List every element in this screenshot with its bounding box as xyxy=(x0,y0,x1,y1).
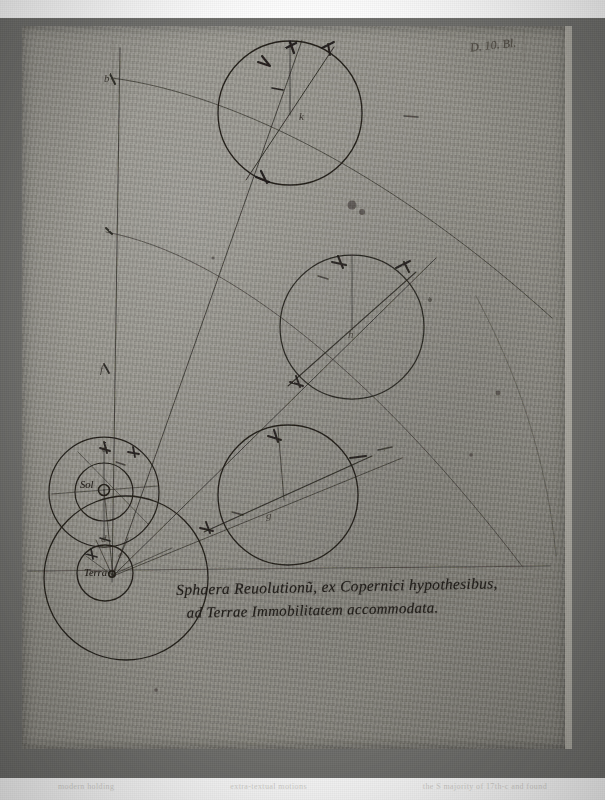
footer-fragment-3: the S majority of 17th-c and found xyxy=(423,782,547,791)
label-point-k: k xyxy=(299,110,304,122)
arc-lower-sweep xyxy=(106,232,522,566)
label-point-f: f xyxy=(100,363,103,375)
label-point-h: h xyxy=(348,328,354,340)
footer-fragment-2: extra-textual motions xyxy=(230,782,307,791)
label-point-d: d xyxy=(101,532,107,544)
manuscript-caption: Sphaera Reuolutionũ, ex Copernici hypoth… xyxy=(176,571,529,626)
footer-showthrough-text: modern holding extra-textual motions the… xyxy=(0,782,605,791)
label-sol: Sol xyxy=(80,479,93,490)
label-point-c: c xyxy=(102,442,107,454)
ray-terra-to-middle-epicycle xyxy=(113,258,436,576)
label-terra: Terra xyxy=(84,567,107,578)
ray-terra-to-upper-epicycle xyxy=(113,40,302,576)
lower-epicycle-oblique-diameter xyxy=(204,456,372,532)
sol-ray-left xyxy=(52,490,104,494)
tick-marks-middle-epicycle xyxy=(290,256,410,387)
label-point-e: e xyxy=(118,548,123,560)
arc-right-margin xyxy=(476,296,556,556)
footer-fragment-1: modern holding xyxy=(58,782,114,791)
manuscript-page: D. 10. Bl. Sol Terra b f k c d e g h Sph… xyxy=(0,0,605,800)
label-point-b: b xyxy=(104,72,110,84)
orb-epicycle-lower xyxy=(218,425,358,565)
tick-marks-upper-epicycle xyxy=(256,42,418,183)
axis-vertical-meridian xyxy=(112,48,120,582)
arc-upper-sweep xyxy=(112,78,552,318)
caption-line-1: Sphaera Reuolutionũ, ex Copernici hypoth… xyxy=(176,574,498,598)
tick-marks-lower-epicycle xyxy=(200,430,392,533)
label-point-g: g xyxy=(266,509,272,521)
